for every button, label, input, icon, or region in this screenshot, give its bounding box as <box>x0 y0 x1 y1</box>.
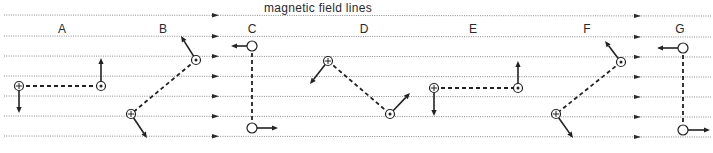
open-circle-icon <box>678 43 688 53</box>
circle-dot-icon <box>192 56 201 65</box>
configuration-labels: ABCDEFG <box>58 22 685 36</box>
field-direction-arrow-icon <box>634 75 641 79</box>
configurations <box>15 36 711 138</box>
open-circle-icon <box>247 123 257 133</box>
field-direction-arrow-icon <box>634 115 641 119</box>
vector-arrow-icon <box>688 127 711 132</box>
vector-arrow-icon <box>181 36 194 56</box>
vector-arrow-icon <box>515 61 520 84</box>
field-direction-arrow-icon <box>634 55 641 59</box>
configuration-label: C <box>248 22 257 36</box>
vector-arrow-icon <box>257 125 279 130</box>
circle-dot-icon <box>386 110 395 119</box>
configuration-label: B <box>159 22 167 36</box>
field-line <box>4 94 711 99</box>
field-line <box>4 74 711 79</box>
vector-arrow-icon <box>16 91 21 114</box>
diagram-title: magnetic field lines <box>264 1 372 15</box>
circle-plus-icon <box>15 82 24 91</box>
circle-dot-icon <box>617 58 626 67</box>
circle-plus-icon <box>127 110 136 119</box>
dashed-connector <box>131 60 196 114</box>
field-line <box>4 114 711 119</box>
configuration-label: F <box>583 22 590 36</box>
configuration-e <box>430 61 523 116</box>
vector-arrow-icon <box>431 93 436 117</box>
field-direction-arrow-icon <box>634 14 641 18</box>
magnetic-field-diagram: magnetic field lines ABCDEFG <box>0 0 713 153</box>
circle-plus-icon <box>430 84 439 93</box>
field-line <box>4 34 711 39</box>
field-direction-arrow-icon <box>212 94 219 98</box>
field-direction-arrow-icon <box>212 134 219 138</box>
field-direction-arrow-icon <box>212 34 219 38</box>
field-line <box>4 134 711 139</box>
field-direction-arrow-icon <box>212 114 219 118</box>
vector-arrow-icon <box>133 118 147 138</box>
configuration-label: A <box>58 22 66 36</box>
circle-plus-icon <box>552 110 561 119</box>
field-direction-arrow-icon <box>634 135 641 139</box>
circle-dot-icon <box>514 84 523 93</box>
open-circle-icon <box>247 41 257 51</box>
field-direction-arrow-icon <box>634 95 641 99</box>
open-circle-icon <box>678 125 688 135</box>
configuration-b <box>127 36 201 138</box>
configuration-f <box>552 41 626 138</box>
configuration-d <box>310 57 410 119</box>
configuration-label: E <box>469 22 477 36</box>
field-direction-arrow-icon <box>212 54 219 58</box>
field-direction-arrow-icon <box>634 35 641 39</box>
field-direction-arrow-icon <box>212 13 219 17</box>
vector-arrow-icon <box>657 45 679 50</box>
configuration-label: D <box>360 22 369 36</box>
dashed-connector <box>556 62 621 114</box>
configuration-c <box>231 41 278 133</box>
dashed-connector <box>328 61 390 114</box>
field-lines <box>4 13 711 139</box>
field-direction-arrow-icon <box>212 74 219 78</box>
configuration-a <box>15 58 106 113</box>
configuration-label: G <box>675 22 684 36</box>
vector-arrow-icon <box>310 65 325 84</box>
vector-arrow-icon <box>231 43 248 48</box>
circle-dot-icon <box>97 82 106 91</box>
vector-arrow-icon <box>393 93 410 111</box>
field-line <box>4 54 711 59</box>
circle-plus-icon <box>324 57 333 66</box>
vector-arrow-icon <box>605 41 618 58</box>
vector-arrow-icon <box>98 58 103 82</box>
vector-arrow-icon <box>559 118 573 138</box>
